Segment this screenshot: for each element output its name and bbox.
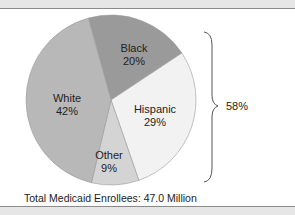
label-white-name: White xyxy=(53,92,81,104)
label-other-name: Other xyxy=(95,149,123,161)
label-other-pct: 9% xyxy=(101,162,117,174)
pie-chart: Black 20% Hispanic 29% Other 9% White 42… xyxy=(0,0,295,215)
label-hispanic-name: Hispanic xyxy=(134,103,177,115)
bottom-border-band xyxy=(0,206,295,215)
label-black-pct: 20% xyxy=(123,55,145,67)
curly-brace xyxy=(204,32,218,182)
brace-total-label: 58% xyxy=(226,100,248,112)
chart-caption: Total Medicaid Enrollees: 47.0 Million xyxy=(24,192,197,204)
label-hispanic-pct: 29% xyxy=(144,116,166,128)
label-white-pct: 42% xyxy=(56,105,78,117)
label-black-name: Black xyxy=(121,42,148,54)
